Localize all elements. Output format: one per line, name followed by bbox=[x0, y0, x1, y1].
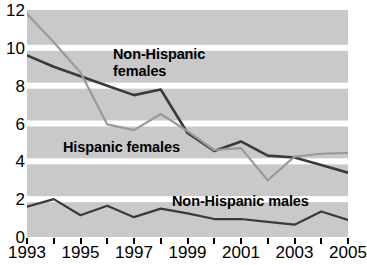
x-tick-label: 2001 bbox=[222, 244, 260, 261]
x-tick bbox=[320, 238, 322, 244]
x-tick-label: 1995 bbox=[62, 244, 100, 261]
y-tick-label: 4 bbox=[0, 153, 25, 170]
y-tick-label: 6 bbox=[0, 116, 25, 133]
x-tick-label: 1993 bbox=[8, 244, 46, 261]
x-tick-label: 2005 bbox=[329, 244, 367, 261]
y-tick-label: 2 bbox=[0, 191, 25, 208]
x-axis: 1993199519971999200120032005 bbox=[0, 239, 363, 265]
x-tick bbox=[160, 238, 162, 244]
x-tick bbox=[267, 238, 269, 244]
series-label-non-hispanic-males: Non-Hispanic males bbox=[172, 193, 309, 210]
y-tick-label: 12 bbox=[0, 2, 25, 19]
x-tick bbox=[213, 238, 215, 244]
y-tick-label: 8 bbox=[0, 78, 25, 95]
x-tick-label: 2003 bbox=[276, 244, 314, 261]
x-tick-label: 1997 bbox=[115, 244, 153, 261]
series-label-non-hispanic-females: Non-Hispanic females bbox=[113, 46, 205, 80]
x-tick bbox=[53, 238, 55, 244]
y-axis: 12 10 8 6 4 2 0 bbox=[0, 0, 25, 247]
y-tick-label: 10 bbox=[0, 40, 25, 57]
x-tick-label: 1999 bbox=[169, 244, 207, 261]
series-label-hispanic-females: Hispanic females bbox=[63, 139, 180, 156]
x-tick bbox=[106, 238, 108, 244]
